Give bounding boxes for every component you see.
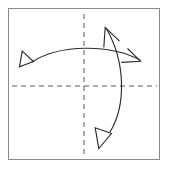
curved-arrows-diagram	[0, 0, 169, 169]
diagram-canvas	[0, 0, 169, 169]
